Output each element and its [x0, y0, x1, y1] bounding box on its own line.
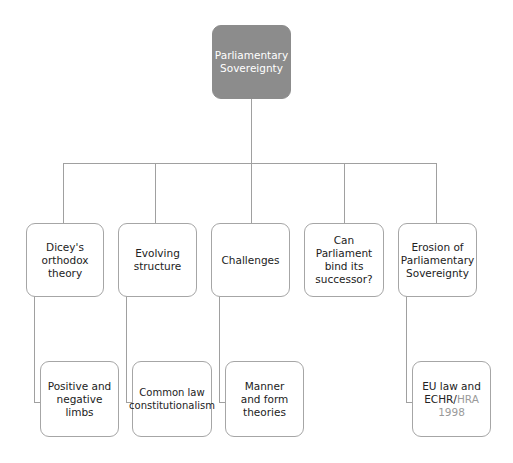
horizontal-bus	[63, 163, 437, 164]
root-node: Parliamentary Sovereignty	[212, 25, 291, 99]
node-evolving-structure: Evolving structure	[118, 223, 197, 297]
child-connector-2-v	[126, 296, 127, 402]
node-can-parliament-bind: Can Parliament bind its successor?	[304, 223, 384, 297]
drop-3	[251, 163, 252, 223]
drop-1	[63, 163, 64, 223]
node-challenges: Challenges	[211, 223, 290, 297]
node-diceys-orthodox-theory: Dicey's orthodox theory	[26, 223, 104, 297]
root-label-line1: Parliamentary	[215, 49, 288, 62]
node-manner-and-form: Manner and form theories	[225, 361, 304, 437]
drop-2	[155, 163, 156, 223]
node-label: Dicey's orthodox theory	[31, 241, 99, 280]
node-label: EU law and ECHR/HRA 1998	[417, 380, 486, 419]
node-label: Manner and form theories	[234, 380, 295, 419]
node-label: Evolving structure	[133, 247, 182, 273]
node-label: Challenges	[222, 254, 280, 267]
node-label: Common law constitutionalism	[129, 386, 215, 412]
node-label: Positive and negative limbs	[47, 380, 112, 419]
child-connector-5-v	[406, 296, 407, 402]
node-common-law-constitutionalism: Common law constitutionalism	[132, 361, 212, 437]
child-connector-3-v	[219, 296, 220, 402]
root-label-line2: Sovereignty	[220, 62, 283, 75]
node-erosion: Erosion of Parliamentary Sovereignty	[398, 223, 477, 297]
node-eu-law-echr-hra: EU law and ECHR/HRA 1998	[412, 361, 491, 437]
node-label: Can Parliament bind its successor?	[313, 234, 375, 286]
drop-4	[344, 163, 345, 223]
drop-5	[436, 163, 437, 223]
child-connector-1-v	[34, 296, 35, 402]
node-positive-negative-limbs: Positive and negative limbs	[40, 361, 119, 437]
node-label: Erosion of Parliamentary Sovereignty	[401, 241, 474, 280]
root-stem	[251, 98, 252, 163]
